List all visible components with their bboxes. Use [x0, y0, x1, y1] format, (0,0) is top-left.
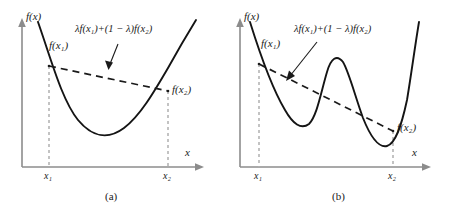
- y-axis-arrowhead: [18, 18, 26, 27]
- point-fx1-marker: [48, 65, 51, 68]
- label-fx2: f(x₂): [172, 84, 191, 95]
- xtick-label-x2: x₂: [163, 171, 171, 181]
- convex-function-curve: [38, 20, 196, 135]
- label-convex-combination: λf(x₁)+(1 − λ)f(x₂): [294, 24, 371, 35]
- label-fx1: f(x₁): [49, 40, 68, 51]
- y-axis-arrowhead: [236, 18, 244, 27]
- point-fx1-marker: [258, 63, 261, 66]
- x-axis-arrowhead: [195, 163, 204, 171]
- xtick-label-x1: x₁: [44, 171, 52, 181]
- formula-pointer-arrowhead: [105, 61, 113, 71]
- y-axis-label: f(x): [26, 11, 41, 22]
- convexity-figure: f(x) x f(x₁) f(x₂) λf(x₁)+(1 − λ)f(x₂) x…: [0, 0, 455, 214]
- point-fx2-marker: [167, 90, 170, 93]
- label-fx2: f(x₂): [397, 122, 416, 133]
- formula-pointer-line: [290, 42, 317, 76]
- xtick-label-x1: x₁: [254, 171, 262, 181]
- panel-b-caption: (b): [332, 190, 345, 202]
- panel-a-convex: f(x) x f(x₁) f(x₂) λf(x₁)+(1 − λ)f(x₂) x…: [0, 0, 228, 214]
- formula-pointer-line: [110, 44, 118, 64]
- xtick-label-x2: x₂: [388, 171, 396, 181]
- panel-b-nonconvex: f(x) x f(x₁) f(x₂) λf(x₁)+(1 − λ)f(x₂) x…: [227, 0, 455, 214]
- x-axis-label: x: [185, 147, 190, 158]
- y-axis-label: f(x): [244, 11, 259, 22]
- panel-a-caption: (a): [105, 190, 117, 202]
- label-convex-combination: λf(x₁)+(1 − λ)f(x₂): [75, 24, 152, 35]
- point-fx2-marker: [392, 130, 395, 133]
- x-axis-arrowhead: [422, 163, 431, 171]
- x-axis-label: x: [412, 147, 417, 158]
- label-fx1: f(x₁): [261, 38, 280, 49]
